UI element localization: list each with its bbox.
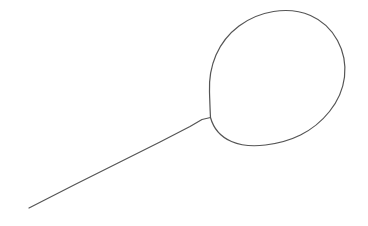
drawing-canvas bbox=[0, 0, 368, 226]
sketch-svg bbox=[0, 0, 368, 226]
canvas-background bbox=[0, 0, 368, 226]
